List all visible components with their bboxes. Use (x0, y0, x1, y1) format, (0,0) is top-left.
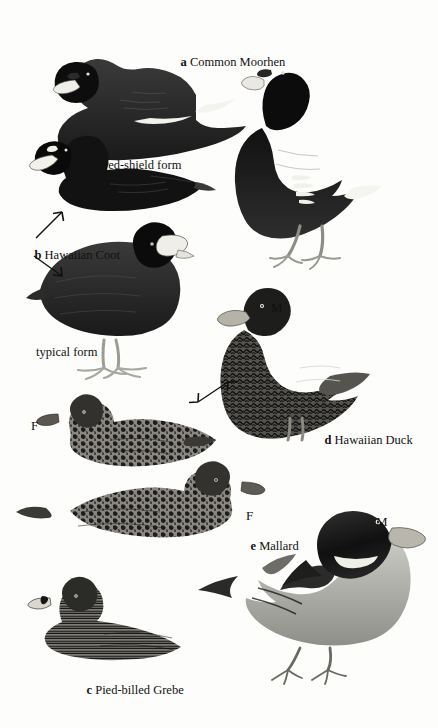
figure-mallard-male (198, 511, 426, 684)
caption-mallard: e Mallard (238, 524, 299, 569)
sex-marker-hawaiian-duck-male: M (271, 300, 283, 316)
caption-name-c: Pied-billed Grebe (95, 683, 184, 697)
bird-illustrations (0, 0, 438, 728)
figure-mallard-female (16, 461, 265, 537)
caption-pied-billed-grebe: c Pied-billed Grebe (74, 668, 184, 713)
sex-marker-mallard-male: M (376, 514, 388, 530)
caption-hawaiian-coot: b Hawaiian Coot (22, 233, 120, 278)
caption-common-moorhen: a Common Moorhen (168, 40, 285, 85)
caption-name-d: Hawaiian Duck (335, 433, 413, 447)
form-label-red-shield: red-shield form (104, 158, 181, 173)
figure-coot-red-shield (30, 136, 217, 211)
figure-hawaiian-duck-female (37, 394, 216, 466)
form-label-typical: typical form (36, 345, 97, 360)
caption-name-b: Hawaiian Coot (45, 248, 120, 262)
figure-pied-billed-grebe (28, 577, 181, 660)
illustration-plate: a Common Moorhen red-shield form b Hawai… (0, 0, 438, 728)
caption-name-e: Mallard (259, 539, 299, 553)
sex-marker-mallard-female: F (246, 508, 253, 524)
sex-marker-hawaiian-duck-female: F (31, 418, 38, 434)
arrow-hawaiian-duck-pair (189, 382, 237, 403)
figure-moorhen-standing (235, 69, 382, 269)
caption-hawaiian-duck: d Hawaiian Duck (312, 418, 413, 463)
caption-name-a: Common Moorhen (190, 55, 285, 69)
